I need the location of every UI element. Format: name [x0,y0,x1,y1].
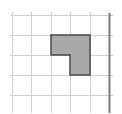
grid-diagram [0,0,122,114]
l-shaped-polygon [51,35,90,75]
